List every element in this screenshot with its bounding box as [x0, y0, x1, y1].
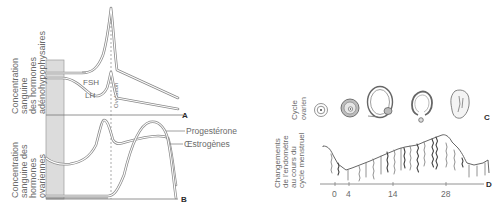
progesterone-label: Progestérone	[186, 126, 237, 136]
endometrium-outline	[323, 135, 489, 173]
ylabel-a-line-4: adénohypophysaires	[37, 30, 47, 114]
panel-a-ylabel: Concentration sanguine des hormones adén…	[10, 30, 47, 114]
tick-28: 28	[168, 202, 178, 204]
menstrual-cycle-diagram: Ovulation FSH LH A Progestérone Œstr	[0, 0, 495, 204]
panel-b-letter: B	[181, 195, 187, 204]
ylabel-d-line-4: cycle menstruel	[297, 132, 306, 188]
fsh-curve	[46, 8, 178, 98]
d-tick-4: 4	[346, 189, 351, 199]
tick-26: 26	[158, 202, 168, 204]
secondary-follicle-icon	[341, 99, 359, 117]
mature-follicle-icon	[368, 87, 393, 118]
estrogens-label: Œstrogènes	[184, 139, 230, 149]
fsh-label: FSH	[83, 78, 99, 87]
panel-c: Cycle ovarien	[290, 87, 490, 123]
ylabel-c-line-2: ovarien	[300, 97, 307, 120]
tick-0: 0	[44, 202, 49, 204]
panel-a-b: Ovulation FSH LH A Progestérone Œstr	[10, 8, 237, 204]
panel-b-x-ticks: 0 2 4 6 8 10 12 14 16 18 20 22 24 26 28	[44, 202, 178, 204]
tick-2: 2	[52, 202, 57, 204]
panel-a-letter: A	[182, 111, 188, 120]
primary-follicle-icon	[315, 104, 328, 117]
ruptured-follicle-icon	[412, 92, 432, 123]
lh-label: LH	[85, 91, 95, 100]
tick-4: 4	[62, 202, 67, 204]
panel-d-letter: D	[486, 180, 492, 189]
panel-b-ylabel: Concentration sanguine des hormones ovar…	[10, 142, 47, 198]
d-tick-28: 28	[441, 189, 451, 199]
lh-curve	[46, 72, 178, 109]
panel-c-letter: C	[484, 113, 490, 122]
endometrial-glands	[331, 137, 485, 181]
panel-d: Changements de l'endomètre au cours du c…	[273, 132, 492, 199]
corpus-luteum-icon	[451, 90, 469, 118]
menses-shaded-region	[46, 60, 64, 199]
d-tick-14: 14	[388, 189, 398, 199]
ylabel-c-line-1: Cycle	[290, 99, 299, 120]
tick-8: 8	[78, 202, 83, 204]
ylabel-b-line-4: ovariennes	[37, 153, 47, 198]
tick-6: 6	[70, 202, 75, 204]
d-tick-0: 0	[332, 189, 337, 199]
